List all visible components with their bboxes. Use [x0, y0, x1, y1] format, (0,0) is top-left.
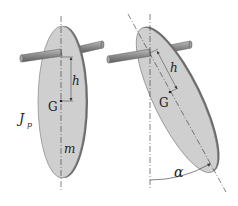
left-G-point	[60, 100, 63, 103]
diagram-canvas: h G J p m	[0, 0, 238, 206]
left-disk	[38, 26, 86, 178]
left-label-h: h	[72, 74, 80, 88]
right-pendulum: h G α	[107, 14, 235, 192]
right-G-point	[169, 91, 172, 94]
left-axle-back	[80, 41, 104, 53]
left-label-J: J	[16, 111, 25, 126]
right-label-alpha: α	[174, 164, 184, 180]
right-label-h: h	[170, 61, 178, 75]
left-label-J-subscript: p	[27, 120, 32, 129]
right-disk	[121, 18, 232, 182]
left-label-m: m	[64, 142, 75, 156]
pendulum-diagram: h G J p m	[0, 0, 238, 206]
right-label-G: G	[159, 96, 169, 110]
left-pendulum: h G J p m	[16, 16, 104, 190]
left-label-G: G	[48, 100, 58, 114]
